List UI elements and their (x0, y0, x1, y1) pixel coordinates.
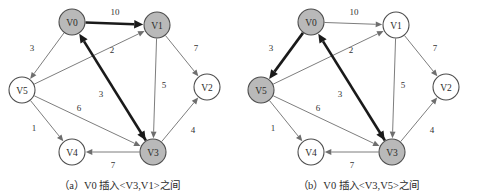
edge-V3-V4 (325, 149, 379, 155)
edge-V0-V1 (85, 20, 143, 28)
edge-V1-V3 (390, 38, 396, 138)
graph-node-v4[interactable]: V4 (59, 139, 85, 165)
arrowhead-icon (86, 149, 93, 155)
edge-weight-label: 5 (162, 80, 167, 90)
edge-layer-a: 10327536174 (30, 7, 199, 170)
edge-weight-label: 6 (316, 103, 321, 113)
edge-weight-label: 2 (349, 45, 354, 55)
edge-weight-label: 3 (99, 89, 104, 99)
graph-node-v0[interactable]: V0 (59, 9, 85, 35)
graph-node-v1[interactable]: V1 (383, 12, 409, 38)
arrowhead-icon (431, 69, 437, 76)
edge-weight-label: 3 (338, 89, 343, 99)
panel-caption-b: （b）V0 插入<V3,V5>之间 (239, 177, 478, 192)
node-layer-a: V0V1V2V3V4V5 (9, 9, 220, 165)
graph-node-v5[interactable]: V5 (248, 77, 274, 103)
arrowhead-icon (192, 98, 198, 105)
node-label: V2 (440, 83, 452, 93)
edge-V1-V2 (404, 36, 437, 77)
edge-layer-b: 10327536174 (269, 7, 438, 170)
edge-weight-label: 7 (194, 43, 199, 53)
node-label: V2 (201, 83, 213, 93)
edge-weight-label: 5 (401, 80, 406, 90)
edge-weight-label: 10 (350, 7, 360, 17)
edge-weight-label: 3 (269, 43, 274, 53)
node-label: V0 (66, 18, 78, 28)
edge-V1-V2 (165, 36, 198, 77)
node-label: V3 (147, 148, 159, 158)
node-label: V3 (386, 148, 398, 158)
graph-node-v3[interactable]: V3 (379, 139, 405, 165)
edge-weight-label: 7 (350, 160, 355, 170)
edge-weight-label: 2 (110, 45, 115, 55)
node-label: V1 (151, 21, 163, 31)
edge-weight-label: 7 (433, 43, 438, 53)
arrowhead-icon (431, 98, 437, 105)
graph-node-v5[interactable]: V5 (9, 77, 35, 103)
arrowhead-icon (151, 132, 157, 139)
graph-node-v4[interactable]: V4 (298, 139, 324, 165)
edge-V3-V4 (86, 149, 140, 155)
arrowhead-icon (376, 21, 383, 27)
edge-V0-V1 (324, 21, 382, 27)
arrowhead-icon (390, 132, 396, 139)
edge-weight-label: 10 (111, 7, 121, 17)
arrowhead-icon (57, 134, 63, 141)
graph-node-v3[interactable]: V3 (140, 139, 166, 165)
arrowhead-icon (192, 69, 198, 76)
edge-V5-V4 (30, 101, 63, 142)
edge-weight-label: 4 (191, 125, 196, 135)
edge-weight-label: 7 (111, 160, 116, 170)
node-layer-b: V0V1V2V3V4V5 (248, 9, 459, 165)
graph-node-v1[interactable]: V1 (144, 12, 170, 38)
graph-node-v2[interactable]: V2 (194, 74, 220, 100)
edge-V5-V1 (34, 31, 144, 84)
arrowhead-icon (30, 72, 36, 79)
node-label: V5 (16, 86, 28, 96)
edge-weight-label: 1 (32, 123, 37, 133)
graph-diagram-b: 10327536174 V0V1V2V3V4V5 (239, 0, 478, 170)
graph-diagram-a: 10327536174 V0V1V2V3V4V5 (0, 0, 239, 170)
edge-weight-label: 4 (430, 125, 435, 135)
edge-V3-V2 (162, 98, 199, 142)
edge-V1-V3 (151, 38, 157, 138)
panel-caption-a: （a）V0 插入<V3,V1>之间 (0, 177, 239, 192)
edge-V5-V4 (269, 101, 302, 142)
edge-weight-label: 3 (30, 43, 35, 53)
edge-weight-label: 6 (77, 103, 82, 113)
graph-panel-b: 10327536174 V0V1V2V3V4V5 （b）V0 插入<V3,V5>… (239, 0, 478, 194)
edge-V3-V2 (401, 98, 438, 142)
graph-panel-a: 10327536174 V0V1V2V3V4V5 （a）V0 插入<V3,V1>… (0, 0, 239, 194)
arrowhead-icon (134, 20, 143, 28)
arrowhead-icon (296, 134, 302, 141)
arrowhead-icon (325, 149, 332, 155)
graph-node-v2[interactable]: V2 (433, 74, 459, 100)
edge-V5-V3 (273, 96, 379, 146)
graph-node-v0[interactable]: V0 (298, 9, 324, 35)
node-label: V4 (66, 148, 78, 158)
edge-V5-V3 (34, 96, 140, 146)
node-label: V5 (255, 86, 267, 96)
node-label: V1 (390, 21, 402, 31)
node-label: V0 (305, 18, 317, 28)
edge-V5-V1 (273, 31, 383, 84)
figure-root: 10327536174 V0V1V2V3V4V5 （a）V0 插入<V3,V1>… (0, 0, 478, 194)
edge-weight-label: 1 (271, 123, 276, 133)
node-label: V4 (305, 148, 317, 158)
